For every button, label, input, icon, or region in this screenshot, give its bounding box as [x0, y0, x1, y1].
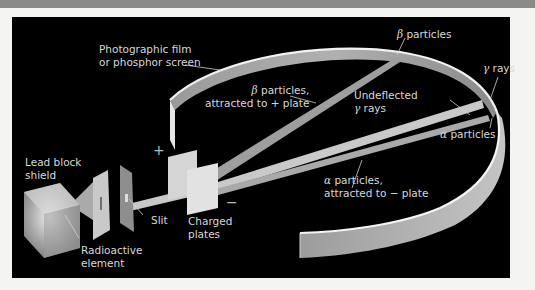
plus-sign: + — [153, 144, 165, 157]
radioactive-element-label: Radioactive element — [81, 244, 142, 270]
negative-plate — [187, 163, 218, 215]
undeflected-gamma-label: Undeflected γ rays — [354, 89, 418, 115]
minus-sign: − — [226, 196, 238, 209]
slit-label: Slit — [151, 214, 168, 227]
beta-particles-label: β particles — [397, 28, 452, 41]
alpha-attracted-label: α particles, attracted to − plate — [324, 174, 428, 200]
lead-block-shield — [24, 183, 80, 258]
film-label: Photographic film or phosphor screen — [99, 43, 201, 69]
alpha-particles-label: α particles — [440, 128, 496, 141]
beta-attracted-label: β particles, attracted to + plate — [205, 84, 309, 110]
lead-block-label: Lead block shield — [25, 156, 81, 182]
gamma-rays-label: γ rays — [483, 62, 515, 75]
charged-plates-label: Charged plates — [188, 215, 232, 241]
